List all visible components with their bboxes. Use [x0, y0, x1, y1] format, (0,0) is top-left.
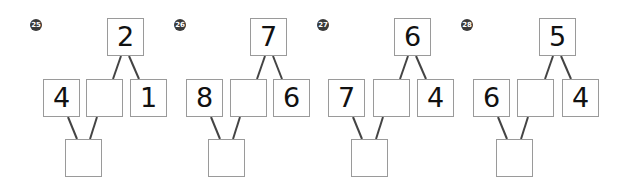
puzzle-28: 28 5 6 4 — [0, 0, 631, 192]
left-number-box: 6 — [473, 79, 510, 117]
bottom-answer-box[interactable] — [496, 139, 533, 177]
right-number-box: 4 — [562, 79, 599, 117]
middle-answer-box[interactable] — [517, 79, 554, 117]
problem-number-badge: 28 — [461, 19, 473, 31]
top-number-box: 5 — [539, 18, 576, 56]
